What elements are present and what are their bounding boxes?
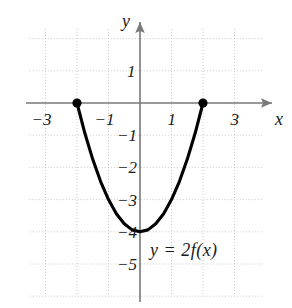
y-tick-label: 1 <box>127 63 136 80</box>
y-axis-label: y <box>122 12 130 30</box>
endpoint-dot <box>72 98 81 107</box>
graph-figure: −3−1131−1−2−3−4−5 x y y = 2f(x) <box>0 0 292 308</box>
y-tick-label: −1 <box>117 127 137 144</box>
curve-equation-label: y = 2f(x) <box>150 241 218 259</box>
y-tick-label: −2 <box>117 159 137 176</box>
x-tick-label: −3 <box>32 111 52 128</box>
x-axis-label: x <box>275 110 283 128</box>
axes <box>26 22 272 302</box>
endpoint-dot <box>198 98 207 107</box>
x-tick-label: 1 <box>168 111 177 128</box>
x-tick-label: −1 <box>95 111 115 128</box>
plot-canvas <box>0 0 292 308</box>
y-tick-label: −5 <box>117 256 137 273</box>
y-tick-label: −3 <box>117 192 137 209</box>
grid-lines <box>30 29 263 296</box>
x-tick-label: 3 <box>231 111 240 128</box>
y-tick-label: −4 <box>117 224 137 241</box>
